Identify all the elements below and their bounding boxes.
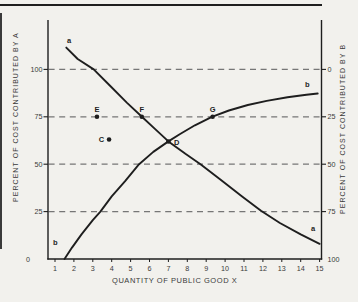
point-label-C: C: [99, 135, 105, 144]
x-axis-tick-label: 2: [72, 264, 76, 273]
right-axis-tick-label: 100: [328, 255, 340, 264]
point-C: [107, 137, 112, 142]
curve-label-b: b: [305, 80, 310, 89]
right-axis-tick-label: 50: [328, 160, 336, 169]
point-F: [139, 115, 144, 120]
x-axis-tick-label: 8: [185, 264, 189, 273]
x-axis-tick-label: 7: [166, 264, 170, 273]
curve-b: [65, 94, 318, 260]
x-axis-tick-label: 1: [53, 264, 57, 273]
left-axis-tick-label: 50: [35, 160, 43, 169]
x-axis-tick-label: 6: [148, 264, 152, 273]
x-axis-tick-label: 11: [240, 264, 247, 273]
x-axis-tick-label: 3: [91, 264, 95, 273]
point-label-D: D: [174, 138, 180, 147]
x-axis-title: QUANTITY OF PUBLIC GOOD X: [112, 276, 237, 285]
x-axis-tick-label: 9: [204, 264, 208, 273]
curve-a: [66, 48, 319, 244]
x-axis-tick-label: 10: [221, 264, 229, 273]
left-axis-tick-label: 0: [26, 255, 30, 264]
x-axis-tick-label: 14: [297, 264, 305, 273]
point-E: [95, 115, 100, 120]
data-curves: [65, 48, 320, 259]
left-axis-title: PERCENT OF COST CONTRIBUTED BY A: [12, 24, 19, 210]
left-axis-tick-label: 100: [31, 65, 43, 74]
right-axis-tick-label: 0: [328, 65, 332, 74]
point-label-G: G: [210, 105, 216, 114]
curve-label-b: b: [53, 238, 58, 247]
gridlines: [49, 69, 321, 211]
right-axis-tick-label: 75: [328, 207, 336, 216]
point-G: [210, 115, 215, 120]
left-rule: [0, 13, 2, 249]
x-axis-tick-label: 15: [316, 264, 324, 273]
x-axis-tick-label: 12: [259, 264, 267, 273]
point-label-E: E: [94, 105, 99, 114]
curve-label-a: a: [311, 224, 316, 233]
x-axis-tick-label: 5: [129, 264, 133, 273]
right-axis-title: PERCENT OF COST CONTRIBUTED BY B: [339, 24, 346, 234]
point-label-F: F: [139, 105, 144, 114]
left-axis-tick-label: 75: [35, 112, 43, 121]
x-axis-tick-label: 4: [110, 264, 114, 273]
left-axis-tick-label: 25: [35, 207, 43, 216]
figure-page: 1007550250025507510012345678910111213141…: [0, 0, 358, 302]
curve-label-a: a: [67, 36, 72, 45]
top-rule: [0, 4, 322, 6]
right-axis-tick-label: 25: [328, 112, 336, 121]
point-D: [166, 139, 171, 144]
x-axis-tick-label: 13: [278, 264, 286, 273]
lindahl-cost-share-chart: 1007550250025507510012345678910111213141…: [0, 0, 358, 302]
